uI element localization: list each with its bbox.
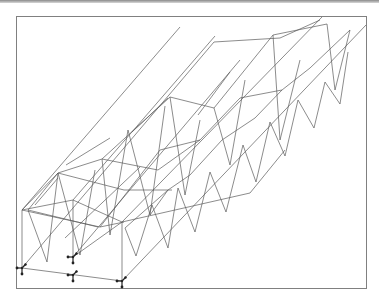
- support-3-icon: [67, 270, 78, 282]
- support-1-icon: [16, 263, 27, 275]
- truss-member: [280, 20, 320, 38]
- truss-member: [298, 100, 314, 128]
- truss-member: [168, 188, 178, 248]
- truss-member: [122, 17, 322, 222]
- truss-member: [282, 68, 310, 90]
- structure-viewport[interactable]: [0, 0, 379, 303]
- truss-member: [28, 210, 47, 262]
- truss-member: [325, 82, 340, 104]
- wireframe-canvas[interactable]: [0, 0, 379, 303]
- truss-member: [273, 24, 327, 35]
- truss-member: [73, 60, 240, 257]
- truss-member: [214, 38, 280, 42]
- truss-member: [226, 145, 243, 212]
- truss-member: [128, 130, 150, 215]
- truss-member: [73, 200, 122, 222]
- truss-member: [185, 120, 200, 195]
- truss-member: [110, 130, 128, 235]
- truss-member: [125, 228, 136, 256]
- truss-member: [250, 150, 285, 193]
- truss-member: [222, 118, 255, 140]
- truss-member: [243, 145, 256, 182]
- truss-member: [230, 80, 245, 165]
- truss-member: [314, 82, 325, 128]
- truss-member: [136, 205, 152, 256]
- truss-member: [210, 172, 226, 212]
- truss-member: [28, 173, 58, 210]
- truss-member: [280, 60, 300, 140]
- truss-member: [102, 159, 158, 170]
- truss-member: [22, 27, 180, 210]
- truss-member: [178, 188, 195, 232]
- truss-member: [335, 30, 350, 90]
- support-2-icon: [67, 252, 78, 264]
- truss-member: [132, 98, 168, 132]
- truss-member: [273, 35, 280, 140]
- viewport-frame: [17, 17, 367, 289]
- truss-member: [58, 173, 80, 255]
- truss-member: [256, 122, 270, 182]
- truss-member: [58, 173, 124, 190]
- truss-member: [270, 122, 285, 156]
- truss-member: [22, 173, 58, 210]
- truss-member: [340, 52, 348, 104]
- support-4-icon: [116, 276, 127, 288]
- truss-member: [122, 193, 250, 222]
- support-symbols: [16, 252, 127, 288]
- truss-member: [327, 24, 335, 90]
- truss-members: [22, 17, 366, 281]
- truss-member: [158, 140, 200, 170]
